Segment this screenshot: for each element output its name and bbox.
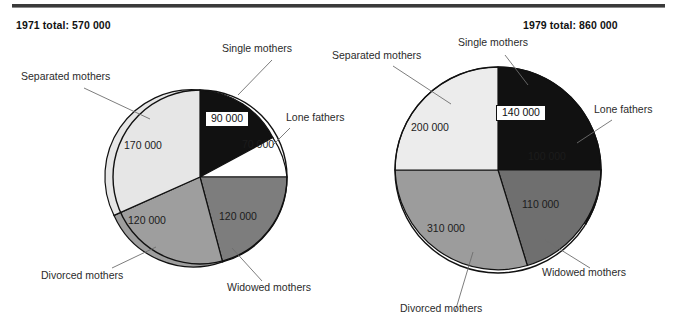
value-1979-lone-fathers: 100 000 bbox=[528, 150, 566, 162]
value-1971-single: 90 000 bbox=[205, 111, 249, 127]
pie-1979-slices bbox=[395, 67, 601, 273]
pie-1971-slices bbox=[105, 90, 287, 267]
value-1971-widowed: 120 000 bbox=[219, 210, 257, 222]
label-1979-separated-mothers: Separated mothers bbox=[332, 49, 421, 61]
label-1979-lone-fathers: Lone fathers bbox=[594, 103, 652, 115]
value-1971-lone-fathers: 70 000 bbox=[242, 138, 274, 150]
value-1979-divorced: 310 000 bbox=[427, 222, 465, 234]
value-1979-separated: 200 000 bbox=[411, 121, 449, 133]
pie-chart-figure: 1971 total: 570 000 1979 total: 860 000 bbox=[0, 0, 675, 334]
value-1971-divorced: 120 000 bbox=[128, 214, 166, 226]
leader-1971-widowed bbox=[232, 248, 262, 281]
leader-1971-single bbox=[238, 60, 272, 95]
value-1979-widowed: 110 000 bbox=[522, 198, 559, 210]
leader-1971-lone-fathers bbox=[273, 128, 290, 145]
label-1979-widowed-mothers: Widowed mothers bbox=[542, 266, 626, 278]
label-1979-single-mothers: Single mothers bbox=[458, 36, 528, 48]
label-1971-separated-mothers: Separated mothers bbox=[21, 70, 110, 82]
label-1979-divorced-mothers: Divorced mothers bbox=[400, 302, 482, 314]
leader-1971-divorced bbox=[112, 247, 156, 268]
label-1971-single-mothers: Single mothers bbox=[222, 42, 292, 54]
label-1971-widowed-mothers: Widowed mothers bbox=[227, 281, 311, 293]
leader-1971-separated bbox=[84, 88, 150, 119]
value-1979-single: 140 000 bbox=[496, 105, 546, 121]
label-1971-divorced-mothers: Divorced mothers bbox=[41, 269, 123, 281]
slice-1979-separated[interactable] bbox=[395, 67, 498, 170]
value-1971-separated: 170 000 bbox=[124, 139, 162, 151]
label-1971-lone-fathers: Lone fathers bbox=[286, 111, 344, 123]
